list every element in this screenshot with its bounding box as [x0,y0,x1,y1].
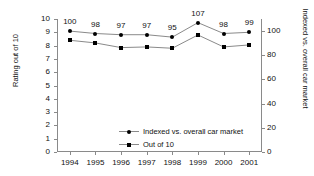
chart-legend: Indexed vs. overall car marketOut of 10 [119,125,243,151]
data-point-marker [119,46,123,50]
y-tick-right [262,55,265,56]
y-tick-right [262,31,265,32]
data-point-label: 95 [160,24,184,32]
data-point-label: 98 [83,21,107,29]
x-tick [95,152,96,155]
data-point-marker [68,38,72,42]
y-tick-label-left: 1 [28,135,50,143]
y-tick-label-right: 80 [267,51,289,59]
x-tick [121,152,122,155]
data-point-label: 107 [186,10,210,18]
x-tick-label: 2001 [234,158,264,167]
y-tick-right [262,79,265,80]
data-point-marker [222,45,226,49]
x-tick [224,152,225,155]
y-tick-label-left: 5 [28,82,50,90]
data-point-marker [222,32,226,36]
y-axis-left-title: Rating out of 10 [11,13,20,109]
data-point-label: 98 [212,21,236,29]
data-point-marker [196,21,200,25]
y-tick-right [262,152,265,153]
data-point-label: 100 [58,18,82,26]
x-tick [70,152,71,155]
legend-marker-icon [119,127,139,136]
data-point-label: 97 [109,22,133,30]
y-tick-label-right: 40 [267,100,289,108]
y-tick-right [262,128,265,129]
y-tick-label-right: 0 [267,148,289,156]
x-tick [198,152,199,155]
data-point-marker [119,33,123,37]
y-tick-label-right: 20 [267,124,289,132]
y-tick-left [54,152,57,153]
y-tick-label-left: 4 [28,95,50,103]
y-tick-label-left: 10 [28,15,50,23]
data-point-marker [68,29,72,33]
y-tick-label-left: 3 [28,108,50,116]
y-tick-label-left: 7 [28,55,50,63]
x-tick [147,152,148,155]
y-axis-right-title: Indexed vs. overall car market [301,4,310,114]
legend-item: Indexed vs. overall car market [119,125,243,138]
data-point-marker [247,43,251,47]
y-tick-label-left: 6 [28,68,50,76]
plot-area: 012345678910 020406080100 19941995199619… [57,19,262,152]
x-tick [172,152,173,155]
y-tick-label-right: 60 [267,75,289,83]
data-point-label: 97 [135,22,159,30]
data-point-label: 99 [237,19,261,27]
data-point-marker [145,33,149,37]
chart-container: Rating out of 10 Indexed vs. overall car… [0,0,314,176]
data-point-marker [93,41,97,45]
x-tick [249,152,250,155]
data-point-marker [145,45,149,49]
legend-item-label: Indexed vs. overall car market [143,127,243,136]
legend-item: Out of 10 [119,138,243,151]
data-point-marker [196,33,200,37]
data-point-marker [170,46,174,50]
y-tick-label-left: 8 [28,42,50,50]
y-tick-label-right: 100 [267,27,289,35]
legend-marker-icon [119,140,139,149]
y-tick-label-left: 0 [28,148,50,156]
y-tick-label-left: 9 [28,28,50,36]
legend-item-label: Out of 10 [143,140,174,149]
y-tick-right [262,104,265,105]
y-tick-label-left: 2 [28,121,50,129]
